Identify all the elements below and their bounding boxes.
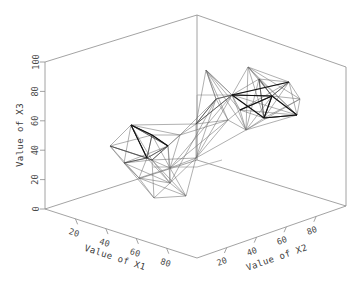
- top-edge-left: [45, 15, 197, 62]
- bridge-edges-light: [170, 70, 246, 183]
- z-axis-title: Value of X3: [15, 103, 25, 167]
- x2-tick-label-20: 20: [215, 255, 228, 268]
- bridge-edges-mid: [196, 95, 232, 124]
- x2-axis-group: 20 40 60 80 Value of X2: [215, 216, 318, 272]
- floor-edge-back-right: [197, 160, 346, 206]
- plot-root: 0 20 40 60 80 100 Value of X3 20 40 60 8…: [0, 0, 363, 284]
- x1-axis-group: 20 40 60 80 Value of X1: [68, 219, 172, 272]
- x1-tick-label-20: 20: [68, 226, 81, 239]
- z-tick-label-60: 60: [31, 116, 41, 126]
- x2-tick-label-80: 80: [305, 224, 318, 237]
- z-tick-label-100: 100: [31, 54, 41, 69]
- z-tick-label-0: 0: [31, 206, 41, 211]
- z-tick-label-80: 80: [31, 86, 41, 96]
- cluster-upper-lobe: [206, 70, 246, 130]
- floor-edge-front-right: [197, 206, 346, 258]
- z-axis-tick-labels: 0 20 40 60 80 100: [31, 54, 41, 211]
- x2-tick-label-40: 40: [245, 245, 258, 258]
- bridge-network: [170, 70, 246, 183]
- z-axis-ticks: [40, 62, 45, 209]
- top-edge-right: [197, 15, 346, 67]
- x2-tick-label-60: 60: [275, 234, 288, 247]
- upper-lobe-edges-light: [206, 70, 246, 130]
- z-axis-group: 0 20 40 60 80 100 Value of X3: [15, 54, 46, 211]
- z-tick-label-20: 20: [31, 174, 41, 184]
- z-tick-label-40: 40: [31, 145, 41, 155]
- cluster-right-edges-dark: [232, 82, 297, 118]
- x1-tick-label-80: 80: [159, 256, 172, 269]
- 3d-scatter-plot: 0 20 40 60 80 100 Value of X3 20 40 60 8…: [0, 0, 363, 284]
